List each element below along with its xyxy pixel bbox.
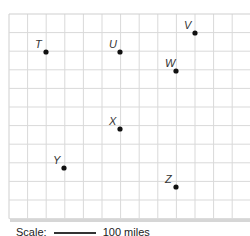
point-label: Y: [53, 154, 61, 166]
point-label: V: [184, 19, 193, 31]
point-label: Z: [164, 173, 173, 185]
point-dot: [173, 184, 178, 189]
point-dot: [43, 49, 48, 54]
grid-map: TUVWXYZ: [0, 0, 250, 236]
point-v: V: [184, 19, 198, 36]
map-shadow: [10, 219, 250, 222]
grid-lines: [9, 14, 250, 219]
point-dot: [192, 30, 197, 35]
scale-value: 100 miles: [103, 226, 150, 236]
scale-line: [54, 232, 96, 234]
point-dot: [173, 68, 178, 73]
point-dot: [61, 165, 66, 170]
points-layer: TUVWXYZ: [35, 19, 198, 190]
point-dot: [117, 49, 122, 54]
scale-label: Scale:: [16, 226, 47, 236]
point-label: W: [165, 57, 177, 69]
point-label: T: [35, 38, 43, 50]
point-label: X: [108, 115, 117, 127]
point-label: U: [109, 38, 117, 50]
point-dot: [117, 126, 122, 131]
scale-bar: Scale: 100 miles: [16, 226, 150, 236]
